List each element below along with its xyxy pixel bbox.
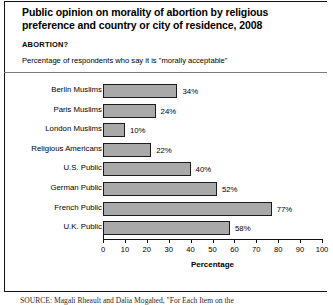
bar-track: 10% bbox=[103, 123, 322, 137]
x-tick-label: 20 bbox=[135, 245, 159, 254]
bar bbox=[103, 202, 272, 216]
x-tick bbox=[300, 239, 301, 243]
x-tick bbox=[191, 239, 192, 243]
bar-track: 24% bbox=[103, 104, 322, 118]
bar-row: Berlin Muslims34% bbox=[12, 82, 327, 102]
bar-value-label: 77% bbox=[277, 205, 293, 214]
bar-value-label: 52% bbox=[222, 185, 238, 194]
bar-chart: Berlin Muslims34%Paris Muslims24%London … bbox=[12, 82, 327, 282]
bar-value-label: 22% bbox=[156, 146, 172, 155]
bar-value-label: 10% bbox=[130, 126, 146, 135]
category-label: French Public bbox=[0, 203, 102, 212]
bar-row: U.K. Public58% bbox=[12, 219, 327, 239]
category-label: London Muslims bbox=[0, 124, 102, 133]
bar-row: London Muslims10% bbox=[12, 121, 327, 141]
bar-value-label: 34% bbox=[182, 87, 198, 96]
x-tick-label: 100 bbox=[310, 245, 333, 254]
figure-title: Public opinion on morality of abortion b… bbox=[22, 6, 322, 32]
bar bbox=[103, 84, 177, 98]
x-tick-label: 80 bbox=[266, 245, 290, 254]
category-label: German Public bbox=[0, 183, 102, 192]
x-tick-label: 40 bbox=[179, 245, 203, 254]
x-tick-label: 90 bbox=[288, 245, 312, 254]
x-tick-label: 0 bbox=[91, 245, 115, 254]
bar-value-label: 58% bbox=[235, 224, 251, 233]
bar bbox=[103, 104, 156, 118]
x-tick-label: 10 bbox=[113, 245, 137, 254]
x-axis-title: Percentage bbox=[103, 260, 322, 269]
bar-value-label: 24% bbox=[161, 107, 177, 116]
x-tick bbox=[103, 239, 104, 243]
bar-value-label: 40% bbox=[196, 165, 212, 174]
x-tick-label: 50 bbox=[201, 245, 225, 254]
bar-row: Paris Muslims24% bbox=[12, 102, 327, 122]
x-tick-label: 30 bbox=[157, 245, 181, 254]
bar bbox=[103, 143, 151, 157]
bar-track: 52% bbox=[103, 182, 322, 196]
category-label: U.K. Public bbox=[0, 222, 102, 231]
figure-kicker: ABORTION? bbox=[22, 40, 68, 49]
x-tick bbox=[147, 239, 148, 243]
bar-track: 77% bbox=[103, 202, 322, 216]
bar bbox=[103, 221, 230, 235]
bar-row: German Public52% bbox=[12, 180, 327, 200]
bar-track: 40% bbox=[103, 162, 322, 176]
bar-row: U.S. Public40% bbox=[12, 160, 327, 180]
bar-track: 58% bbox=[103, 221, 322, 235]
bar-track: 22% bbox=[103, 143, 322, 157]
bar bbox=[103, 182, 217, 196]
x-tick bbox=[213, 239, 214, 243]
bar-row: French Public77% bbox=[12, 200, 327, 220]
x-tick bbox=[278, 239, 279, 243]
x-tick bbox=[169, 239, 170, 243]
x-tick bbox=[256, 239, 257, 243]
category-label: Paris Muslims bbox=[0, 105, 102, 114]
x-tick bbox=[322, 239, 323, 243]
bar-row: Religious Americans22% bbox=[12, 141, 327, 161]
source-note: SOURCE: Magali Rheault and Dalia Mogahed… bbox=[20, 296, 320, 305]
category-label: U.S. Public bbox=[0, 163, 102, 172]
x-tick bbox=[125, 239, 126, 243]
bar-rows: Berlin Muslims34%Paris Muslims24%London … bbox=[12, 82, 327, 239]
bar bbox=[103, 123, 125, 137]
x-tick-label: 70 bbox=[244, 245, 268, 254]
figure-subtitle: Percentage of respondents who say it is … bbox=[22, 56, 227, 65]
category-label: Berlin Muslims bbox=[0, 85, 102, 94]
x-tick bbox=[234, 239, 235, 243]
category-label: Religious Americans bbox=[0, 144, 102, 153]
bar bbox=[103, 162, 191, 176]
bar-track: 34% bbox=[103, 84, 322, 98]
x-tick-label: 60 bbox=[222, 245, 246, 254]
